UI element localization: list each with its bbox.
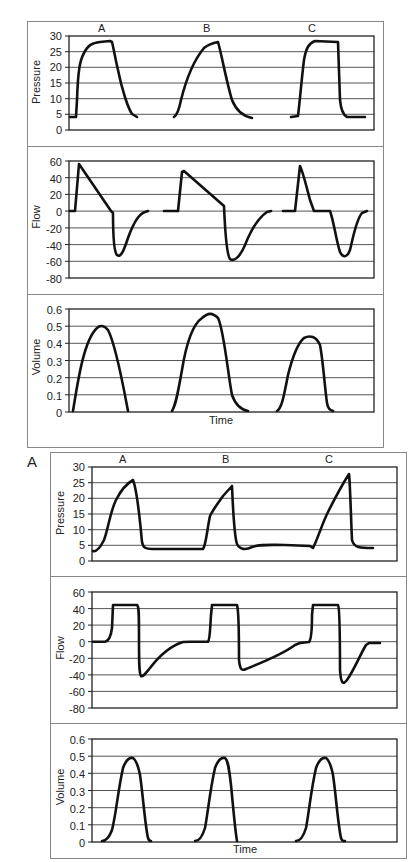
bottom-volume-panel xyxy=(88,739,397,842)
bottom-breath-label-b: B xyxy=(222,453,229,465)
bottom-flow-panel xyxy=(88,592,397,708)
bottom-flow-ylabel: Flow xyxy=(54,618,66,678)
bottom-pressure-trace xyxy=(93,474,373,551)
bottom-breath-label-a: A xyxy=(119,453,126,465)
bottom-breath-label-c: C xyxy=(325,453,333,465)
bottom-volume-trace xyxy=(102,758,345,841)
bottom-xlabel: Time xyxy=(233,843,257,855)
bottom-flow-trace xyxy=(93,605,380,683)
bottom-volume-ylabel: Volume xyxy=(54,757,66,817)
bottom-pressure-ylabel: Pressure xyxy=(54,483,66,543)
